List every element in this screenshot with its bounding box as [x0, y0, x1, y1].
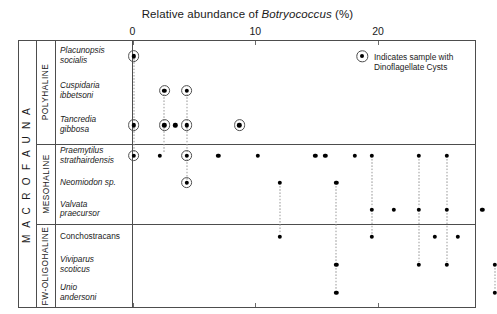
x-axis-tick-label: 20	[372, 25, 384, 37]
taxon-name: Unioandersoni	[60, 283, 132, 303]
taxon-name: Viviparusscoticus	[60, 255, 132, 275]
taxon-name-line: Neomiodon sp.	[60, 178, 132, 188]
taxon-name-line: strathairdensis	[60, 156, 132, 166]
salinity-group-label-text: POLYHALINE	[41, 64, 51, 120]
taxon-name: Cuspidariaibbetsoni	[60, 81, 132, 101]
salinity-group-label: POLYHALINE	[36, 40, 55, 144]
salinity-group-label-text: FW-OLIGOHALINE	[41, 227, 51, 306]
taxon-name-line: socialis	[60, 56, 132, 66]
legend-line-2: Dinoflagellate Cysts	[374, 62, 472, 72]
taxon-name: Conchostracans	[60, 232, 132, 242]
x-axis-tick-label: 10	[249, 25, 261, 37]
macrofauna-axis-label: M A C R O F A U N A	[18, 40, 36, 308]
salinity-group-label-text: MESOHALINE	[41, 154, 51, 213]
taxon-name-line: ibbetsoni	[60, 91, 132, 101]
divider-taxon-names	[132, 40, 133, 308]
salinity-group-label: FW-OLIGOHALINE	[36, 224, 55, 308]
taxon-name-line: gibbosa	[60, 125, 132, 135]
salinity-group-label: MESOHALINE	[36, 144, 55, 225]
data-point	[493, 263, 497, 267]
dinoflagellate-cyst-marker-icon	[360, 54, 364, 58]
taxon-name-line: praecursor	[60, 209, 132, 219]
taxon-name-line: andersoni	[60, 293, 132, 303]
taxon-name: Tancrediagibbosa	[60, 115, 132, 135]
taxon-name-line: scoticus	[60, 265, 132, 275]
legend-line-1: Indicates sample with	[374, 52, 472, 62]
taxon-name: Neomiodon sp.	[60, 178, 132, 188]
chart-title-taxon: Botryococcus	[262, 8, 332, 20]
chart-title-prefix: Relative abundance of	[142, 8, 262, 20]
taxon-name: Praemytilusstrathairdensis	[60, 146, 132, 166]
divider-salinity-group	[55, 40, 56, 308]
group-divider	[36, 224, 476, 225]
taxon-name-line: Conchostracans	[60, 232, 132, 242]
data-point	[493, 291, 497, 295]
chart-title-suffix: (%)	[332, 8, 353, 20]
taxon-name: Valvatapraecursor	[60, 200, 132, 220]
chart-title: Relative abundance of Botryococcus (%)	[0, 8, 495, 20]
x-axis-tick-label: 0	[130, 25, 136, 37]
data-point	[480, 207, 484, 211]
legend: Indicates sample with Dinoflagellate Cys…	[360, 52, 472, 73]
correlation-stem	[494, 268, 495, 290]
taxon-name: Placunopsissocialis	[60, 46, 132, 66]
macrofauna-axis-label-text: M A C R O F A U N A	[22, 105, 33, 242]
